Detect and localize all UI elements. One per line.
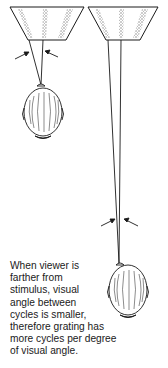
- figure-caption: When viewer is farther from stimulus, vi…: [10, 260, 125, 358]
- caption-line: stimulus, visual: [10, 284, 125, 296]
- caption-line: more cycles per degree: [10, 333, 125, 345]
- caption-line: When viewer is: [10, 260, 125, 272]
- caption-line: therefore grating has: [10, 321, 125, 333]
- caption-line: cycles is smaller,: [10, 309, 125, 321]
- caption-line: farther from: [10, 272, 125, 284]
- near-grating-stimulus: [10, 7, 84, 40]
- far-sight-lines: [108, 40, 121, 263]
- near-viewer-head-icon: [23, 84, 64, 139]
- far-grating-stimulus: [88, 7, 158, 40]
- caption-line: angle between: [10, 297, 125, 309]
- near-visual-angle-arrows-icon: [15, 50, 58, 59]
- near-sight-lines: [29, 40, 43, 85]
- caption-line: of visual angle.: [10, 345, 125, 357]
